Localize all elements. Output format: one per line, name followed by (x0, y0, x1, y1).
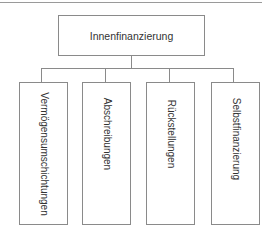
child-node-label: Vermögensumschichtungen (38, 92, 49, 215)
child-connector-1 (41, 68, 42, 82)
child-node-label: Selbstfinanzierung (230, 98, 241, 180)
child-node-rueckstellungen: Rückstellungen (146, 82, 195, 225)
child-node-selbstfinanzierung: Selbstfinanzierung (211, 82, 260, 225)
root-node: Innenfinanzierung (58, 15, 205, 56)
child-node-abschreibungen: Abschreibungen (82, 82, 131, 225)
child-node-label: Abschreibungen (101, 98, 112, 170)
top-rule (0, 2, 262, 3)
horizontal-connector (41, 68, 234, 69)
root-node-label: Innenfinanzierung (90, 30, 173, 42)
child-connector-3 (169, 68, 170, 82)
child-connector-4 (233, 68, 234, 82)
child-node-label: Rückstellungen (165, 100, 176, 168)
root-connector (131, 56, 132, 68)
child-connector-2 (105, 68, 106, 82)
child-node-vermoegensumschichtungen: Vermögensumschichtungen (19, 82, 68, 225)
